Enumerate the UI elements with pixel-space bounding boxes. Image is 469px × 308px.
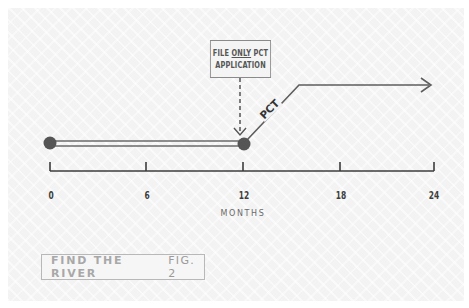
tick-label-18: 18: [336, 190, 346, 201]
tick-label-6: 6: [144, 190, 149, 201]
tick-label-0: 0: [48, 190, 53, 201]
file-only-pct-callout: FILE ONLY PCT APPLICATION: [210, 40, 271, 78]
month-12-marker: [238, 138, 251, 151]
figure-caption: FIND THE RIVER FIG. 2: [41, 254, 205, 280]
caption-title: FIND THE RIVER: [51, 254, 162, 280]
axis-title: MONTHS: [221, 209, 266, 218]
tick-label-12: 12: [239, 190, 249, 201]
pre-pct-track: [50, 141, 244, 146]
tick-label-24: 24: [429, 190, 439, 201]
callout-line-2: APPLICATION: [215, 59, 266, 71]
caption-figure-number: FIG. 2: [168, 254, 204, 280]
months-axis: [50, 162, 434, 171]
callout-line-1: FILE ONLY PCT: [213, 47, 268, 59]
callout-pointer-arrow: [234, 78, 246, 135]
start-marker: [44, 137, 57, 150]
